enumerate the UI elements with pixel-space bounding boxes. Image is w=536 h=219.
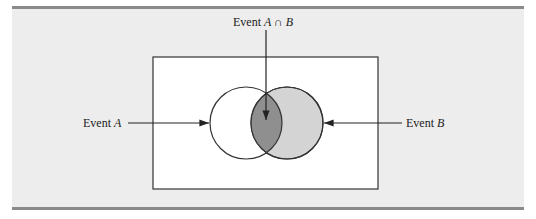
event-a-label: Event A [83,116,121,131]
venn-diagram [0,0,536,219]
intersection-label: Event A ∩ B [233,15,293,30]
event-b-label: Event B [406,116,444,131]
